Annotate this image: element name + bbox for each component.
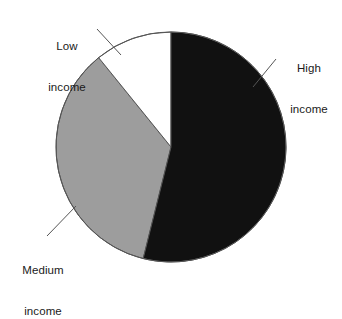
- pie-label-low-income-line2: income: [34, 81, 100, 95]
- pie-label-medium-income-line1: Medium: [10, 264, 76, 278]
- pie-label-medium-income-line2: income: [10, 305, 76, 319]
- leader-line-medium-income: [47, 206, 76, 236]
- pie-label-high-income: High income: [278, 35, 340, 143]
- pie-label-low-income: Low income: [34, 13, 100, 121]
- pie-label-high-income-line2: income: [278, 103, 340, 117]
- pie-label-high-income-line1: High: [278, 62, 340, 76]
- pie-label-low-income-line1: Low: [34, 40, 100, 54]
- pie-label-medium-income: Medium income: [10, 237, 76, 319]
